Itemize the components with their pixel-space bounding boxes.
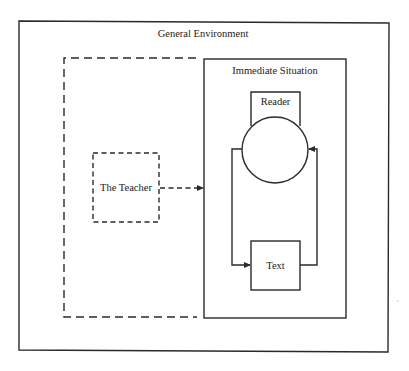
reader-circle: [242, 117, 308, 183]
reading-context-diagram: General Environment Immediate Situation …: [0, 0, 409, 371]
scan-speck: [397, 300, 398, 301]
reader-to-text-arrow: [232, 149, 250, 265]
reader-label: Reader: [261, 96, 291, 107]
text-to-reader-arrow: [300, 149, 317, 265]
immediate-situation-label: Immediate Situation: [232, 65, 318, 76]
teacher-label: The Teacher: [100, 182, 152, 193]
general-environment-label: General Environment: [158, 28, 249, 39]
text-label: Text: [266, 260, 285, 271]
